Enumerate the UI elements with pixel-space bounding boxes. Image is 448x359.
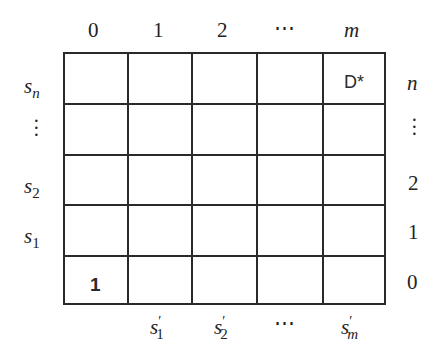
grid-vline xyxy=(322,52,324,305)
bottom-label-sm-prime: s′m xyxy=(341,315,358,342)
grid-hline xyxy=(63,303,386,305)
grid-hline xyxy=(63,52,386,54)
cell-one: 1 xyxy=(90,274,101,296)
row-label-s1: s1 xyxy=(24,226,40,251)
row-label-right-2: 2 xyxy=(408,173,419,194)
column-header-2: 2 xyxy=(217,20,228,41)
bottom-label-s1-prime: s′1 xyxy=(150,315,164,342)
row-label-right-0: 0 xyxy=(407,272,418,293)
row-label-right-1: 1 xyxy=(408,222,419,243)
column-header-0: 0 xyxy=(88,20,99,41)
bottom-label-sm-sub: m xyxy=(347,326,358,342)
bottom-label-s1-sub: 1 xyxy=(156,326,164,342)
grid-vline xyxy=(127,52,129,305)
column-header-1: 1 xyxy=(153,20,164,41)
row-label-vdots-right: ··· xyxy=(411,117,418,138)
bottom-label-ellipsis: ⋯ xyxy=(274,313,295,334)
grid-hline xyxy=(63,103,386,105)
column-header-m: m xyxy=(344,20,359,41)
grid-vline xyxy=(63,52,65,305)
row-label-sn: sn xyxy=(24,76,40,101)
row-label-right-n: n xyxy=(407,73,418,94)
cell-d-star: D* xyxy=(344,72,364,93)
column-header-ellipsis: ⋯ xyxy=(274,18,295,39)
row-label-s2: s2 xyxy=(24,176,40,201)
row-label-s1-sub: 1 xyxy=(32,235,40,251)
grid-vline xyxy=(256,52,258,305)
dp-table-grid: D* 1 xyxy=(63,52,386,305)
grid-hline xyxy=(63,154,386,156)
grid-hline xyxy=(63,204,386,206)
row-label-s1-base: s xyxy=(24,224,32,248)
row-label-sn-base: s xyxy=(24,74,32,98)
bottom-label-s2-prime: s′2 xyxy=(214,315,228,342)
bottom-label-s2-sub: 2 xyxy=(220,326,228,342)
row-label-sn-sub: n xyxy=(32,85,40,101)
row-label-s2-sub: 2 xyxy=(32,185,40,201)
row-label-s2-base: s xyxy=(24,174,32,198)
grid-vline xyxy=(384,52,386,305)
grid-vline xyxy=(191,52,193,305)
row-label-vdots-left: ··· xyxy=(33,118,40,139)
grid-hline xyxy=(63,255,386,257)
